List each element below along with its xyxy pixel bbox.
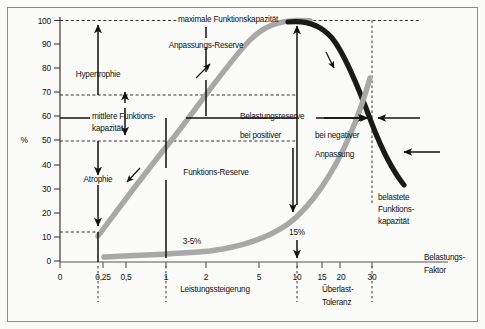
x-tick-1: 1 xyxy=(164,272,168,282)
label-mid-capacity-line1: mittlere Funktions- xyxy=(92,112,156,121)
x-tick-5: 5 xyxy=(257,272,261,282)
annotation-lines xyxy=(60,25,440,262)
label-loaded-capacity-line2: Funktions- xyxy=(378,205,414,214)
x-tick-30: 30 xyxy=(368,272,377,282)
label-loaded-capacity-line3: kapazität xyxy=(378,217,409,226)
y-ticks xyxy=(54,21,60,262)
x-axis-title-line2: Faktor xyxy=(424,266,446,275)
y-axis-unit: % xyxy=(21,135,28,145)
label-load-reserve-line2: bei positiver xyxy=(240,131,281,140)
y-tick-0: 0 xyxy=(47,256,51,266)
x-ticks xyxy=(60,262,372,268)
label-pct-3-5: 3-5% xyxy=(183,237,201,246)
y-tick-30: 30 xyxy=(42,184,51,194)
x-tick-0: 0 xyxy=(58,272,62,282)
y-tick-70: 70 xyxy=(42,87,51,97)
label-overload-tolerance-line1: Überlast- xyxy=(322,285,353,294)
label-hypertrophy: Hypertrophie xyxy=(76,70,120,79)
label-overload-tolerance-line2: Toleranz xyxy=(322,298,351,307)
chart-figure: 100 90 80 70 60 50 40 30 20 10 0 % 0 0,2… xyxy=(0,0,485,329)
x-axis-title-line1: Belastungs- xyxy=(424,253,465,262)
axes xyxy=(54,17,448,268)
y-tick-80: 80 xyxy=(42,63,51,73)
curve-decline-dark xyxy=(288,22,404,185)
x-tick-15: 15 xyxy=(318,272,327,282)
label-negative-line2: Anpassung xyxy=(315,150,354,159)
arrow-diag-down-right xyxy=(326,52,334,68)
label-atrophy: Atrophie xyxy=(84,175,113,184)
label-mid-capacity-line2: kapazität xyxy=(92,124,123,133)
label-max-capacity: maximale Funktionskapazität xyxy=(178,15,278,24)
y-tick-100: 100 xyxy=(38,16,51,26)
label-load-reserve-line1: Belastungsreserve xyxy=(240,112,304,121)
x-tick-20: 20 xyxy=(337,272,346,282)
label-loaded-capacity-line1: belastete xyxy=(378,193,409,202)
y-tick-40: 40 xyxy=(42,160,51,170)
arrow-diag-up-right xyxy=(196,64,210,78)
x-tick-05: 0,5 xyxy=(120,272,131,282)
y-tick-60: 60 xyxy=(42,111,51,121)
y-tick-20: 20 xyxy=(42,208,51,218)
curve-adaptation-gray xyxy=(98,21,310,237)
label-function-reserve: Funktions-Reserve xyxy=(183,168,248,177)
y-tick-10: 10 xyxy=(42,232,51,242)
y-tick-90: 90 xyxy=(42,39,51,49)
label-pct-15: 15% xyxy=(289,228,305,237)
label-performance-increase: Leistungssteigerung xyxy=(180,285,249,294)
y-tick-50: 50 xyxy=(42,135,51,145)
x-tick-2: 2 xyxy=(204,272,208,282)
label-adaptation-reserve: Anpassungs-Reserve xyxy=(169,41,244,50)
label-negative-line1: bei negativer xyxy=(315,131,359,140)
x-tick-10: 10 xyxy=(293,272,302,282)
x-tick-025: 0,25 xyxy=(95,272,111,282)
